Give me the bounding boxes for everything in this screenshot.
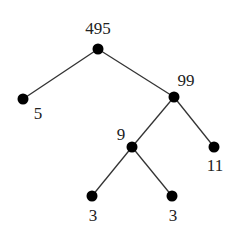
node-label-495: 495 [85, 19, 111, 38]
edge-495-to-5 [23, 49, 98, 99]
node-label-11: 11 [207, 156, 223, 175]
edge-9-to-3 [132, 147, 172, 196]
node-dot-3 [87, 191, 98, 202]
node-dot-99 [169, 92, 180, 103]
factor-tree-diagram: 49559991133 [0, 0, 246, 247]
node-label-3: 3 [89, 206, 98, 225]
edge-99-to-11 [174, 97, 214, 147]
node-dot-495 [93, 44, 104, 55]
node-dot-3 [167, 191, 178, 202]
node-label-3: 3 [169, 206, 178, 225]
edge-99-to-9 [132, 97, 174, 147]
edge-495-to-99 [98, 49, 174, 97]
tree-nodes [18, 44, 220, 202]
node-dot-9 [127, 142, 138, 153]
node-label-99: 99 [178, 71, 195, 90]
node-label-5: 5 [34, 104, 43, 123]
node-dot-11 [209, 142, 220, 153]
node-label-9: 9 [117, 125, 126, 144]
node-dot-5 [18, 94, 29, 105]
edge-9-to-3 [92, 147, 132, 196]
